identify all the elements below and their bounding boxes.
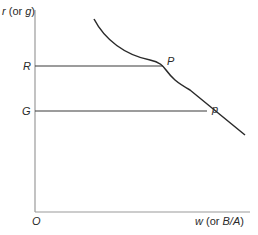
y-axis-paren-close: ) [31, 5, 35, 17]
origin-label: O [32, 216, 41, 227]
x-axis-label: w (or B/A) [195, 216, 244, 227]
x-axis-paren-close: ) [240, 215, 244, 227]
demand-curve [94, 19, 245, 135]
x-axis-var: w [195, 215, 203, 227]
x-axis-alt-var: B/A [223, 215, 241, 227]
point-p-upper-label: P [167, 56, 174, 67]
point-p-lower-label: p [212, 104, 218, 115]
g-level-label: G [22, 106, 31, 117]
diagram-canvas [0, 0, 258, 235]
y-axis-label: r (or g) [2, 6, 35, 17]
x-axis-paren-open: (or [203, 215, 223, 227]
y-axis-paren-open: (or [6, 5, 26, 17]
r-level-label: R [23, 61, 31, 72]
